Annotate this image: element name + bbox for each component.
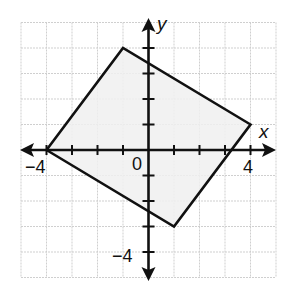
y-axis-label: y <box>155 13 168 34</box>
coordinate-graph: x y 0 −4 4 −4 <box>0 0 284 286</box>
y-tick-label-neg4: −4 <box>112 246 133 266</box>
origin-label: 0 <box>132 154 142 174</box>
x-tick-label-neg4: −4 <box>25 157 46 177</box>
axes <box>20 18 276 281</box>
x-axis-label: x <box>258 121 270 142</box>
x-tick-label-4: 4 <box>243 157 253 177</box>
